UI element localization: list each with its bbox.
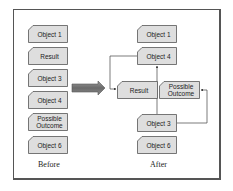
after-result: Result <box>117 81 158 99</box>
before-caption: Before <box>38 160 60 169</box>
box-label: Possible Outcome <box>28 113 68 131</box>
after-object-1: Object 1 <box>137 25 177 43</box>
after-object-3: Object 3 <box>137 114 177 132</box>
box-label: Object 4 <box>28 91 68 109</box>
box-label: Object 1 <box>28 25 68 43</box>
box-label: Object 6 <box>28 136 68 154</box>
before-object-4: Object 4 <box>28 91 68 109</box>
box-label: Object 3 <box>137 114 177 132</box>
before-result: Result <box>28 47 68 65</box>
box-label: Object 1 <box>137 25 177 43</box>
after-caption: After <box>150 160 167 169</box>
before-object-1: Object 1 <box>28 25 68 43</box>
after-object-6: Object 6 <box>137 136 177 154</box>
before-object-6: Object 6 <box>28 136 68 154</box>
after-possible-outcome: Possible Outcome <box>159 81 200 99</box>
box-label: Object 6 <box>137 136 177 154</box>
after-object-4: Object 4 <box>137 47 177 65</box>
before-object-3: Object 3 <box>28 69 68 87</box>
box-label: Object 3 <box>28 69 68 87</box>
before-possible-outcome: Possible Outcome <box>28 113 68 131</box>
box-label: Result <box>28 47 68 65</box>
box-label: Result <box>117 81 158 99</box>
box-label: Possible Outcome <box>159 81 200 99</box>
box-label: Object 4 <box>137 47 177 65</box>
transform-arrow-icon <box>72 81 105 95</box>
